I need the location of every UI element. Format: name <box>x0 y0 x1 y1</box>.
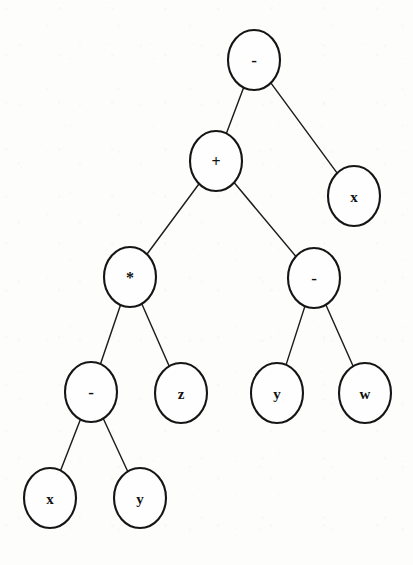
node-label-minus-right: - <box>311 269 317 288</box>
node-label-leaf-y-bottom: y <box>136 491 144 507</box>
tree-node-leaf-x-bottom[interactable]: x <box>24 468 76 528</box>
edge-minus-to-w <box>326 305 353 367</box>
edge-plus-to-minus <box>234 183 296 257</box>
tree-node-leaf-y-bottom[interactable]: y <box>114 468 166 528</box>
edge-minus-to-x <box>61 419 81 470</box>
edge-times-to-minus <box>100 305 120 364</box>
edge-root-to-x <box>271 83 337 173</box>
node-label-leaf-y-right: y <box>273 386 281 402</box>
tree-node-plus[interactable]: + <box>190 131 242 191</box>
node-label-leaf-x-bottom: x <box>46 491 54 507</box>
expression-tree-diagram: -+x*--zywxy <box>0 0 413 565</box>
edge-minus-to-y-bottom <box>103 418 128 471</box>
node-label-leaf-w: w <box>360 386 371 402</box>
node-label-plus: + <box>211 153 220 170</box>
node-label-root-minus: - <box>251 51 257 70</box>
tree-node-leaf-z[interactable]: z <box>155 363 207 423</box>
nodes-layer: -+x*--zywxy <box>24 30 391 528</box>
node-label-leaf-x-right: x <box>350 189 358 205</box>
tree-node-root-minus[interactable]: - <box>228 30 280 90</box>
edge-minus-to-y <box>286 306 305 365</box>
node-label-times: * <box>126 269 134 286</box>
tree-node-minus-right[interactable]: - <box>288 248 340 308</box>
tree-node-leaf-w[interactable]: w <box>339 363 391 423</box>
tree-node-minus-left[interactable]: - <box>65 362 117 422</box>
tree-node-leaf-y-right[interactable]: y <box>251 363 303 423</box>
tree-node-times[interactable]: * <box>104 247 156 307</box>
edge-plus-to-times <box>147 184 199 254</box>
node-label-minus-left: - <box>88 383 94 402</box>
node-label-leaf-z: z <box>178 386 185 402</box>
edge-times-to-z <box>142 304 169 367</box>
tree-node-leaf-x-right[interactable]: x <box>328 166 380 226</box>
edge-root-to-plus <box>226 88 243 134</box>
